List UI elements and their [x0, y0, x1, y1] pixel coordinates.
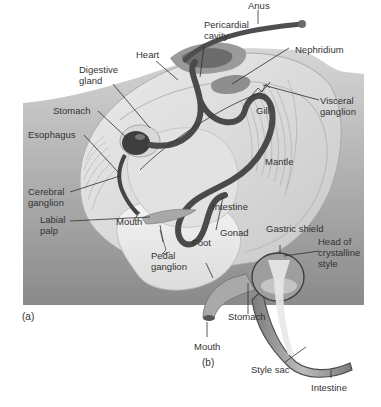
label-mouth-a: Mouth	[116, 216, 142, 227]
label-intestine-a: Intestine	[212, 201, 248, 212]
label-anus: Anus	[248, 0, 270, 11]
panel-b-tag: (b)	[202, 357, 214, 368]
label-stomach-b: Stomach	[228, 311, 266, 322]
panel-a-tag: (a)	[22, 311, 34, 322]
label-nephridium: Nephridium	[295, 44, 344, 55]
label-gonad: Gonad	[220, 227, 249, 238]
label-pedal-ganglion: Pedal ganglion	[151, 250, 187, 272]
anus-opening	[298, 20, 306, 28]
label-gill: Gill	[256, 105, 270, 116]
label-digestive-gland: Digestive gland	[79, 64, 118, 86]
label-intestine-b: Intestine	[311, 382, 347, 393]
label-heart: Heart	[136, 49, 159, 60]
label-pericardial-cavity: Pericardial cavity	[204, 19, 249, 41]
label-foot: Foot	[192, 237, 211, 248]
b-mouth-opening	[203, 315, 215, 321]
label-esophagus: Esophagus	[28, 129, 76, 140]
label-mouth-b: Mouth	[194, 341, 220, 352]
label-labial-palp: Labial palp	[40, 214, 65, 236]
label-visceral-ganglion: Visceral ganglion	[320, 95, 356, 117]
label-gastric-shield: Gastric shield	[266, 223, 324, 234]
label-cerebral-ganglion: Cerebral ganglion	[28, 186, 64, 208]
label-style-sac: Style sac	[251, 364, 290, 375]
label-mantle: Mantle	[265, 156, 294, 167]
stomach	[122, 131, 150, 155]
label-stomach-a: Stomach	[53, 105, 91, 116]
label-head-of-crystalline-style: Head of crystalline style	[318, 236, 360, 269]
